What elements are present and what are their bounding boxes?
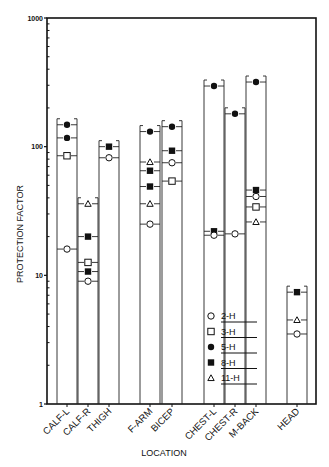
y-tick-label: 100 [31, 143, 43, 150]
filled-circle-icon [208, 344, 214, 350]
open-circle-icon [208, 313, 214, 319]
column-calf-l [57, 119, 77, 407]
open-square-icon [208, 328, 214, 334]
open-triangle-icon [147, 159, 153, 165]
plot-border [47, 18, 316, 404]
open-circle-icon [232, 231, 238, 237]
y-tick-label: 1000 [27, 15, 43, 22]
filled-square-icon [169, 148, 175, 154]
filled-circle-icon [64, 135, 70, 141]
x-label-head: HEAD [275, 406, 302, 433]
filled-circle-icon [147, 128, 153, 134]
open-circle-icon [64, 246, 70, 252]
open-triangle-icon [208, 375, 214, 381]
y-axis-ticks: 1101001000 [27, 15, 49, 408]
filled-square-icon [85, 233, 91, 239]
open-triangle-icon [85, 201, 91, 207]
filled-square-icon [208, 359, 214, 365]
column-head [287, 286, 307, 407]
legend-item-3-h: 3-H [208, 327, 257, 338]
legend-label: 2-H [221, 311, 236, 321]
open-circle-icon [169, 160, 175, 166]
filled-square-icon [106, 143, 112, 149]
open-square-icon [64, 153, 70, 159]
filled-square-icon [147, 168, 153, 174]
legend-item-5-h: 5-H [208, 342, 257, 353]
column-m-back [246, 76, 266, 407]
x-label-thigh: THIGH [85, 406, 114, 435]
column-thigh [99, 141, 119, 407]
open-triangle-icon [147, 201, 153, 207]
open-circle-icon [85, 278, 91, 284]
filled-circle-icon [64, 122, 70, 128]
legend-item-11-h: 11-H [208, 373, 257, 384]
legend-label: 3-H [221, 327, 236, 337]
y-tick-label: 10 [35, 272, 43, 279]
legend-label: 11-H [221, 373, 240, 383]
legend: 2-H3-H5-H8-H11-H [208, 311, 257, 384]
y-tick-label: 1 [39, 401, 43, 408]
x-axis-category-labels: CALF-LCALF-RTHIGHF-ARMBICEPCHEST-LCHEST-… [40, 405, 301, 443]
open-triangle-icon [253, 219, 259, 225]
open-circle-icon [294, 331, 300, 337]
x-axis-title: LOCATION [141, 448, 186, 458]
open-square-icon [85, 259, 91, 265]
column-calf-r [78, 198, 98, 407]
legend-label: 8-H [221, 358, 236, 368]
filled-circle-icon [169, 123, 175, 129]
filled-circle-icon [253, 79, 259, 85]
x-label-f-arm: F-ARM [125, 406, 154, 435]
filled-square-icon [294, 289, 300, 295]
open-square-icon [253, 204, 259, 210]
filled-circle-icon [232, 111, 238, 117]
legend-label: 5-H [221, 342, 236, 352]
open-circle-icon [211, 232, 217, 238]
open-circle-icon [253, 193, 259, 199]
x-label-bicep: BICEP [148, 406, 176, 434]
filled-square-icon [253, 187, 259, 193]
filled-square-icon [147, 183, 153, 189]
y-axis-title: PROTECTION FACTOR [15, 185, 25, 283]
legend-item-2-h: 2-H [208, 311, 257, 322]
open-triangle-icon [294, 317, 300, 323]
legend-item-8-h: 8-H [208, 358, 257, 369]
open-square-icon [169, 178, 175, 184]
protection-factor-chart: 1101001000 CALF-LCALF-RTHIGHF-ARMBICEPCH… [0, 0, 329, 467]
category-columns [57, 76, 307, 407]
filled-circle-icon [211, 83, 217, 89]
open-circle-icon [106, 155, 112, 161]
open-circle-icon [147, 221, 153, 227]
filled-square-icon [85, 268, 91, 274]
plot-frame [47, 18, 316, 404]
